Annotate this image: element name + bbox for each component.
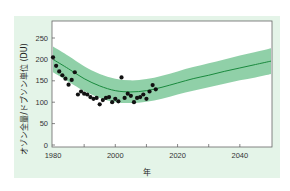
- data-point: [63, 77, 67, 81]
- y-tick-label: 50: [40, 119, 48, 128]
- data-point: [76, 92, 80, 96]
- data-point: [73, 70, 77, 74]
- data-point: [147, 89, 151, 93]
- data-point: [151, 83, 155, 87]
- data-point: [141, 92, 145, 96]
- y-axis-label: オゾン全量/ドブソン単位 (DU): [19, 43, 29, 155]
- x-tick-label: 2000: [107, 151, 124, 160]
- data-point: [66, 83, 70, 87]
- data-point: [95, 96, 99, 100]
- data-point: [107, 95, 111, 99]
- y-tick-label: 0: [44, 141, 48, 150]
- x-tick-label: 1980: [45, 151, 62, 160]
- data-point: [57, 69, 61, 73]
- data-point: [116, 99, 120, 103]
- data-point: [119, 75, 123, 79]
- y-tick-label: 200: [35, 55, 48, 64]
- data-point: [110, 100, 114, 104]
- data-point: [154, 87, 158, 91]
- data-point: [70, 78, 74, 82]
- data-point: [98, 102, 102, 106]
- x-tick-label: 2020: [169, 151, 186, 160]
- ozone-chart: 0501001502002501980200020202040 オゾン全量/ドブ…: [0, 0, 290, 191]
- data-point: [129, 94, 133, 98]
- y-tick-label: 150: [35, 76, 48, 85]
- x-axis-label: 年: [143, 167, 151, 177]
- y-tick-label: 250: [35, 34, 48, 43]
- data-point: [144, 97, 148, 101]
- data-point: [54, 64, 58, 68]
- data-point: [123, 96, 127, 100]
- y-tick-label: 100: [35, 98, 48, 107]
- data-point: [60, 73, 64, 77]
- data-point: [51, 55, 55, 59]
- x-tick-label: 2040: [232, 151, 249, 160]
- data-point: [132, 100, 136, 104]
